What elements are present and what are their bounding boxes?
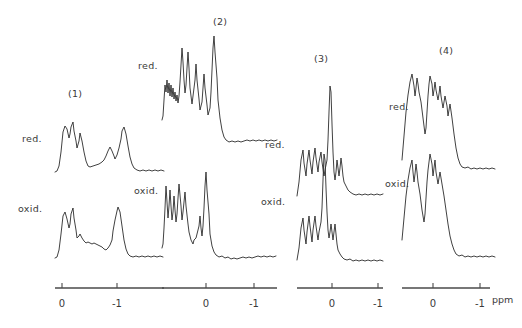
panel-3-plot bbox=[265, 0, 405, 328]
nmr-figure: (1) red. oxid. 0 -1 (2) red. oxid. 0 -1 … bbox=[0, 0, 522, 328]
panel-2-trace-oxid bbox=[162, 172, 276, 259]
panel-3-trace-red bbox=[297, 86, 383, 196]
panel-4: (4) red. oxid. 0 -1 ppm bbox=[390, 0, 522, 328]
panel-4-trace-red bbox=[402, 74, 495, 169]
panel-3: (3) red. oxid. 0 -1 bbox=[265, 0, 405, 328]
panel-2-trace-red bbox=[162, 36, 277, 142]
panel-4-trace-oxid bbox=[402, 154, 495, 257]
panel-4-plot bbox=[390, 0, 522, 328]
